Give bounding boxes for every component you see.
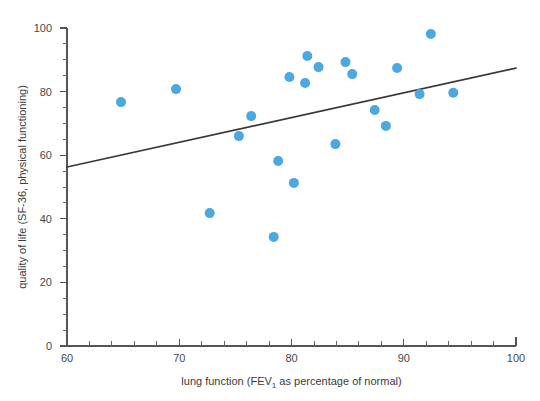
regression-line bbox=[67, 68, 516, 167]
x-axis-title-before: lung function (FEV bbox=[181, 375, 272, 387]
data-point[interactable] bbox=[300, 78, 310, 88]
data-point[interactable] bbox=[381, 121, 391, 131]
data-point[interactable] bbox=[448, 88, 458, 98]
data-point[interactable] bbox=[284, 72, 294, 82]
x-tick-label: 100 bbox=[507, 352, 525, 364]
y-tick-label: 60 bbox=[40, 149, 52, 161]
data-point[interactable] bbox=[205, 208, 215, 218]
y-tick-label: 20 bbox=[40, 276, 52, 288]
y-tick-label: 40 bbox=[40, 213, 52, 225]
data-point[interactable] bbox=[246, 111, 256, 121]
x-axis-tick-labels: 60 70 80 90 100 bbox=[61, 352, 525, 364]
data-point[interactable] bbox=[347, 69, 357, 79]
x-tick-label: 80 bbox=[285, 352, 297, 364]
y-axis-minor-ticks bbox=[63, 44, 68, 330]
data-point[interactable] bbox=[116, 97, 126, 107]
data-point[interactable] bbox=[314, 62, 324, 72]
chart-canvas: 60 70 80 90 100 0 20 40 60 80 100 lung f… bbox=[0, 0, 540, 401]
y-axis-title: quality of life (SF-36, physical functio… bbox=[16, 85, 28, 289]
data-point[interactable] bbox=[330, 139, 340, 149]
data-point[interactable] bbox=[269, 232, 279, 242]
x-tick-label: 90 bbox=[398, 352, 410, 364]
data-point[interactable] bbox=[415, 89, 425, 99]
x-tick-label: 60 bbox=[61, 352, 73, 364]
y-tick-label: 80 bbox=[40, 86, 52, 98]
data-point[interactable] bbox=[426, 29, 436, 39]
y-tick-label: 100 bbox=[34, 22, 52, 34]
x-axis-title: lung function (FEV1 as percentage of nor… bbox=[181, 375, 401, 390]
data-point[interactable] bbox=[234, 131, 244, 141]
data-point[interactable] bbox=[289, 178, 299, 188]
data-points-group bbox=[116, 29, 458, 242]
data-point[interactable] bbox=[302, 51, 312, 61]
scatter-plot-figure: 60 70 80 90 100 0 20 40 60 80 100 lung f… bbox=[0, 0, 540, 401]
data-point[interactable] bbox=[370, 105, 380, 115]
data-point[interactable] bbox=[392, 63, 402, 73]
data-point[interactable] bbox=[171, 84, 181, 94]
y-tick-label: 0 bbox=[46, 340, 52, 352]
y-axis-tick-labels: 0 20 40 60 80 100 bbox=[34, 22, 52, 352]
x-axis-title-after: as percentage of normal) bbox=[276, 375, 401, 387]
data-point[interactable] bbox=[341, 57, 351, 67]
data-point[interactable] bbox=[273, 156, 283, 166]
x-tick-label: 70 bbox=[173, 352, 185, 364]
